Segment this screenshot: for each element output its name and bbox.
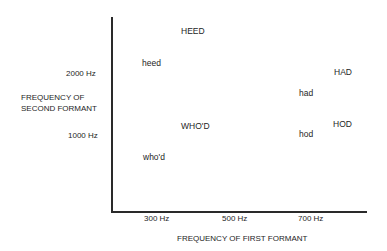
x-axis-title: FREQUENCY OF FIRST FORMANT: [177, 235, 307, 243]
point-label-HOD: HOD: [333, 120, 352, 129]
x-axis-line: [111, 211, 367, 213]
point-label-had: had: [299, 89, 313, 98]
x-tick-700: 700 Hz: [298, 215, 323, 223]
y-axis-line: [111, 17, 113, 213]
x-tick-300: 300 Hz: [144, 215, 169, 223]
point-label-hod: hod: [299, 130, 313, 139]
y-axis-title-line1: FREQUENCY OF: [21, 92, 97, 103]
y-axis-title: FREQUENCY OF SECOND FORMANT: [21, 92, 97, 114]
point-label-whod: who'd: [143, 153, 165, 162]
y-axis-title-line2: SECOND FORMANT: [21, 103, 97, 114]
x-tick-500: 500 Hz: [222, 215, 247, 223]
point-label-HAD: HAD: [334, 68, 352, 77]
point-label-WHOD: WHO'D: [181, 122, 210, 131]
point-label-HEED: HEED: [181, 27, 205, 36]
y-tick-2000: 2000 Hz: [66, 70, 96, 78]
y-tick-1000: 1000 Hz: [68, 132, 98, 140]
point-label-heed: heed: [142, 59, 161, 68]
